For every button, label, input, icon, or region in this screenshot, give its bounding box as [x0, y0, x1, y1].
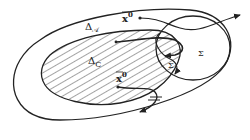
target-set-outer-label: Σ	[198, 49, 204, 58]
diagram-canvas: Δ𝒜 ΔC x0 x0 Σ Σ	[0, 0, 250, 140]
region-diagram: Δ𝒜 ΔC x0 x0 Σ Σ	[0, 0, 250, 140]
inner-region-hatched	[41, 30, 180, 104]
target-set-inner-label: Σ	[168, 61, 174, 70]
outer-region-label: Δ𝒜	[85, 21, 100, 34]
